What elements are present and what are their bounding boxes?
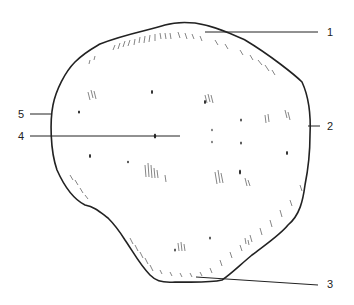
specimen-drawing [0, 0, 354, 305]
label-4: 4 [18, 130, 24, 142]
label-1: 1 [327, 26, 333, 38]
label-3: 3 [327, 278, 333, 290]
surface-pits [78, 90, 288, 252]
label-5: 5 [18, 108, 24, 120]
leader-lines [30, 32, 320, 285]
label-2: 2 [327, 120, 333, 132]
hatching [70, 32, 302, 277]
